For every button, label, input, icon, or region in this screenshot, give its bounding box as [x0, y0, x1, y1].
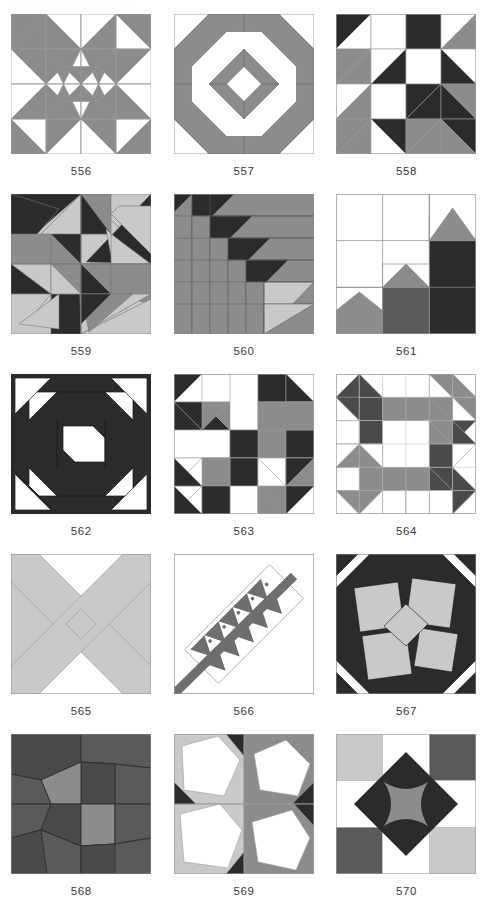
block-label: 563 — [233, 525, 254, 537]
block-row: 562 — [0, 374, 488, 554]
block-570[interactable] — [336, 734, 476, 874]
block-cell-562[interactable]: 562 — [0, 374, 163, 554]
block-cell-561[interactable]: 561 — [325, 194, 488, 374]
block-559[interactable] — [11, 194, 151, 334]
block-565[interactable] — [11, 554, 151, 694]
block-556[interactable] — [11, 14, 151, 154]
block-label: 565 — [71, 705, 92, 717]
block-cell-570[interactable]: 570 — [325, 734, 488, 914]
block-cell-556[interactable]: 556 — [0, 14, 163, 194]
block-label: 560 — [233, 345, 254, 357]
block-564[interactable] — [336, 374, 476, 514]
block-cell-567[interactable]: 567 — [325, 554, 488, 734]
block-cell-565[interactable]: 565 — [0, 554, 163, 734]
block-cell-566[interactable]: 566 — [163, 554, 326, 734]
block-row: 556 557 — [0, 14, 488, 194]
block-label: 567 — [396, 705, 417, 717]
block-562[interactable] — [11, 374, 151, 514]
block-label: 559 — [71, 345, 92, 357]
block-560[interactable] — [174, 194, 314, 334]
block-568[interactable] — [11, 734, 151, 874]
block-557[interactable] — [174, 14, 314, 154]
quilt-block-grid: 556 557 — [0, 14, 488, 914]
block-cell-558[interactable]: 558 — [325, 14, 488, 194]
block-cell-557[interactable]: 557 — [163, 14, 326, 194]
block-558[interactable] — [336, 14, 476, 154]
page-header-text: QUILT BLOCK PATTERNS — [14, 0, 130, 10]
block-cell-559[interactable]: 559 — [0, 194, 163, 374]
block-label: 558 — [396, 165, 417, 177]
block-561[interactable] — [336, 194, 476, 334]
block-label: 561 — [396, 345, 417, 357]
block-cell-569[interactable]: 569 — [163, 734, 326, 914]
block-row: 559 — [0, 194, 488, 374]
block-cell-560[interactable]: 560 — [163, 194, 326, 374]
block-569[interactable] — [174, 734, 314, 874]
block-567[interactable] — [336, 554, 476, 694]
block-563[interactable] — [174, 374, 314, 514]
block-label: 566 — [233, 705, 254, 717]
block-label: 562 — [71, 525, 92, 537]
block-566[interactable] — [174, 554, 314, 694]
block-cell-563[interactable]: 563 — [163, 374, 326, 554]
block-label: 557 — [233, 165, 254, 177]
block-label: 564 — [396, 525, 417, 537]
block-label: 569 — [233, 885, 254, 897]
block-row: 565 — [0, 554, 488, 734]
block-row: 568 — [0, 734, 488, 914]
block-cell-564[interactable]: 564 — [325, 374, 488, 554]
block-label: 556 — [71, 165, 92, 177]
block-label: 570 — [396, 885, 417, 897]
block-label: 568 — [71, 885, 92, 897]
block-cell-568[interactable]: 568 — [0, 734, 163, 914]
